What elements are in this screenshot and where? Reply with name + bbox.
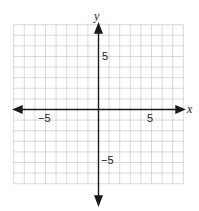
x-axis-label: x [187, 103, 192, 115]
x-axis-right-arrow-icon [176, 106, 184, 113]
coordinate-plane [0, 0, 199, 211]
x-axis-left-arrow-icon [14, 106, 22, 113]
y-tick-label-pos5: 5 [102, 51, 108, 62]
y-axis-label: y [94, 10, 99, 22]
y-axis [95, 24, 102, 205]
y-axis-up-arrow-icon [95, 24, 102, 33]
x-tick-label-neg5: −5 [38, 113, 51, 124]
y-axis-down-arrow-icon [95, 196, 102, 205]
y-tick-label-neg5: −5 [101, 155, 114, 166]
x-tick-label-pos5: 5 [147, 113, 153, 124]
